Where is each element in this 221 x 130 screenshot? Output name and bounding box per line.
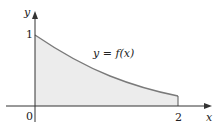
x-axis-arrow-icon (204, 103, 212, 109)
origin-label: 0 (26, 110, 33, 123)
y-axis-label: y (23, 6, 31, 19)
x-tick-2-label: 2 (175, 111, 182, 124)
shaded-area (35, 35, 178, 106)
chart: y x 0 1 2 y = f(x) (0, 0, 221, 130)
curve-label: y = f(x) (92, 47, 134, 60)
y-axis-arrow-icon (32, 11, 38, 19)
y-tick-1-label: 1 (26, 28, 33, 41)
x-axis-label: x (206, 111, 213, 124)
